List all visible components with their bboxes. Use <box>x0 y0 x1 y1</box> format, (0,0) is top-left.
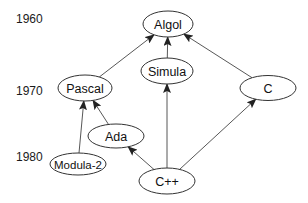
edge-c-to-algol <box>184 34 252 78</box>
inheritance-edges <box>79 34 256 169</box>
year-axis-labels: 196019701980 <box>16 12 43 164</box>
node-label: Ada <box>105 130 127 144</box>
edge-cpp-to-c <box>180 99 256 169</box>
language-nodes: AlgolSimulaPascalCAdaModula-2C++ <box>50 11 296 194</box>
year-label-1970: 1970 <box>16 84 43 98</box>
node-c: C <box>240 76 296 101</box>
language-genealogy-diagram: 196019701980 AlgolSimulaPascalCAdaModula… <box>0 0 308 203</box>
node-label: C++ <box>155 175 179 189</box>
node-algol: Algol <box>143 11 193 37</box>
node-modula2: Modula-2 <box>50 153 106 175</box>
year-label-1960: 1960 <box>16 12 43 26</box>
node-label: Pascal <box>66 82 104 96</box>
node-simula: Simula <box>141 58 193 84</box>
year-label-1980: 1980 <box>16 150 43 164</box>
node-label: Simula <box>148 65 186 79</box>
node-label: C <box>263 82 272 96</box>
edge-cpp-to-ada <box>128 147 154 170</box>
edge-modula2-to-pascal <box>79 101 84 153</box>
edge-ada-to-pascal <box>93 100 109 124</box>
node-pascal: Pascal <box>58 75 112 101</box>
node-cpp: C++ <box>139 168 195 194</box>
node-ada: Ada <box>88 124 144 148</box>
node-label: Algol <box>154 18 182 32</box>
node-label: Modula-2 <box>54 159 102 171</box>
